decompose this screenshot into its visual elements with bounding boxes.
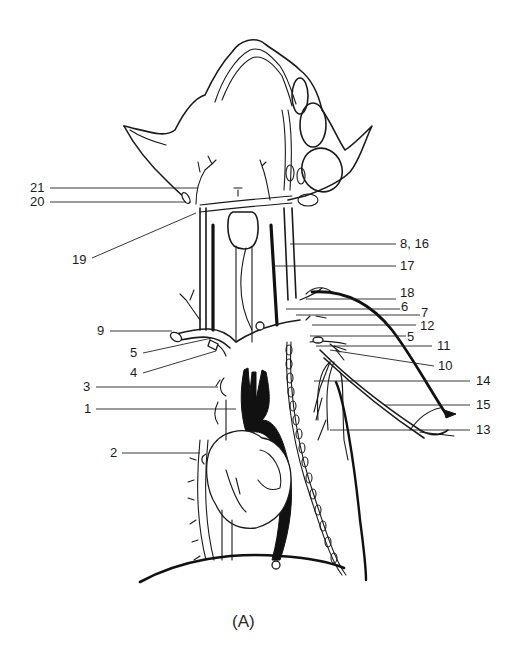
label-15: 15 xyxy=(476,398,490,412)
label-5-right: 5 xyxy=(407,330,414,344)
label-21: 21 xyxy=(30,181,44,195)
label-14: 14 xyxy=(476,374,490,388)
label-2: 2 xyxy=(110,446,117,460)
label-19: 19 xyxy=(72,253,86,267)
figure-caption: (A) xyxy=(232,612,255,632)
label-18: 18 xyxy=(400,286,414,300)
label-1: 1 xyxy=(84,402,91,416)
label-12: 12 xyxy=(420,319,434,333)
beaded-chain xyxy=(286,342,346,575)
label-9: 9 xyxy=(97,324,104,338)
label-20: 20 xyxy=(30,195,44,209)
label-17: 17 xyxy=(400,259,414,273)
label-5-left: 5 xyxy=(130,346,137,360)
label-11: 11 xyxy=(437,339,451,353)
anatomy-diagram xyxy=(0,0,525,665)
label-13: 13 xyxy=(476,423,490,437)
heart-and-great-vessels xyxy=(202,368,292,569)
label-3: 3 xyxy=(83,380,90,394)
label-10: 10 xyxy=(438,359,452,373)
label-8-16: 8, 16 xyxy=(400,237,429,251)
label-6: 6 xyxy=(401,300,408,314)
label-4: 4 xyxy=(130,366,137,380)
head-outline xyxy=(124,40,372,206)
diaphragm xyxy=(140,555,344,582)
neck-vessels xyxy=(180,156,296,342)
